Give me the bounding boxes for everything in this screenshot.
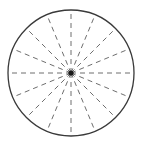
figure-container: [0, 0, 144, 147]
spoked-circle-diagram: [0, 0, 144, 147]
center-hub: [68, 70, 73, 75]
